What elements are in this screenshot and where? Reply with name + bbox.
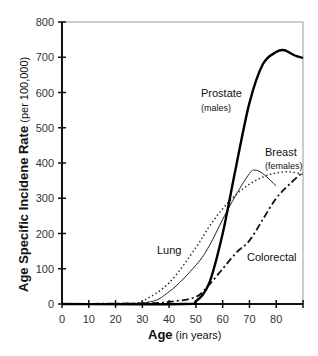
prostate-label: Prostate [201, 87, 242, 99]
breast-line [62, 172, 303, 304]
y-tick-label: 400 [36, 157, 54, 169]
y-axis-title-main: Age Specific Incidene Rate [16, 126, 31, 292]
x-axis-title-main: Age [148, 327, 173, 342]
y-tick-label: 0 [48, 298, 54, 310]
colorectal-line [62, 172, 303, 304]
y-tick-label: 100 [36, 263, 54, 275]
x-tick-label: 60 [217, 313, 229, 325]
x-tick-label: 30 [136, 313, 148, 325]
x-axis-title-suffix: (in years) [173, 329, 222, 341]
y-tick-label: 800 [36, 16, 54, 28]
series-layer [62, 50, 303, 304]
x-tick-label: 0 [59, 313, 65, 325]
y-axis-title-suffix: (per 100,000) [18, 57, 30, 126]
colorectal-label: Colorectal [247, 251, 297, 263]
y-tick-label: 600 [36, 87, 54, 99]
x-tick-label: 80 [270, 313, 282, 325]
lung-line [62, 170, 276, 304]
breast-label: Breast [265, 146, 297, 158]
breast-sublabel: (females) [265, 161, 303, 171]
y-axis-title: Age Specific Incidene Rate (per 100,000) [16, 57, 31, 292]
incidence-chart: 0100200300400500600700800 01020304050607… [0, 0, 318, 356]
y-tick-label: 700 [36, 51, 54, 63]
x-tick-label: 50 [190, 313, 202, 325]
x-tick-label: 10 [83, 313, 95, 325]
lung-label: Lung [157, 244, 181, 256]
y-tick-label: 300 [36, 192, 54, 204]
x-axis-title: Age (in years) [148, 327, 221, 342]
x-tick-label: 70 [243, 313, 255, 325]
y-tick-label: 200 [36, 228, 54, 240]
x-tick-label: 40 [163, 313, 175, 325]
x-tick-label: 20 [109, 313, 121, 325]
y-tick-label: 500 [36, 122, 54, 134]
prostate-sublabel: (males) [201, 103, 231, 113]
